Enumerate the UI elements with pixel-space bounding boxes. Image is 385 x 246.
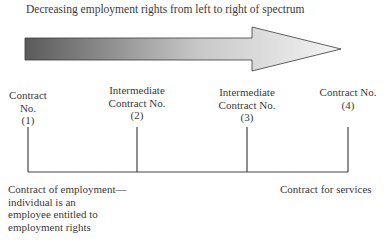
spectrum-bracket	[28, 127, 348, 172]
left-caption: Contract of employment— individual is an…	[8, 183, 127, 233]
point-2-label: Intermediate Contract No. (2)	[102, 84, 172, 122]
point-4-label: Contract No. (4)	[314, 86, 382, 111]
point-1-label: Contract No. (1)	[8, 89, 48, 127]
point-3-label: Intermediate Contract No. (3)	[212, 86, 282, 124]
right-caption: Contract for services	[280, 183, 372, 196]
arrow-right-icon	[25, 27, 341, 71]
